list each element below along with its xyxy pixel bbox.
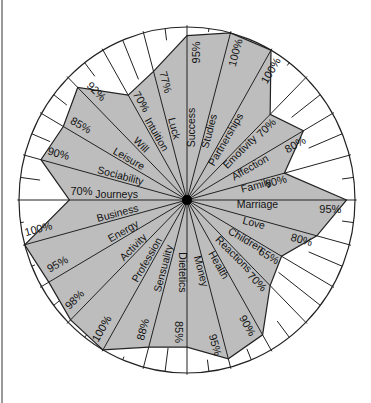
cell-divider — [207, 360, 209, 372]
cell-divider — [54, 301, 59, 305]
cell-divider — [342, 177, 353, 179]
category-label-journeys: Journeys — [95, 188, 138, 200]
cell-divider — [165, 348, 168, 372]
cell-divider — [20, 177, 40, 180]
cell-divider — [309, 252, 343, 266]
cell-divider — [32, 134, 50, 142]
value-label-dietetics: 85% — [173, 321, 185, 343]
cell-divider — [165, 28, 167, 40]
category-label-marriage: Marriage — [237, 198, 279, 210]
cell-divider — [277, 321, 289, 337]
cell-divider — [342, 221, 353, 223]
cell-divider — [54, 95, 67, 105]
value-label-marriage: 95% — [319, 203, 341, 215]
value-label-success: 95% — [190, 41, 202, 63]
cell-divider — [291, 95, 320, 118]
cell-divider — [309, 134, 343, 148]
center-hub — [182, 195, 192, 205]
category-label-success: Success — [185, 108, 197, 148]
cell-divider — [247, 349, 251, 360]
radar-chart: Marriage95%Family60%Affection80%Emotivit… — [0, 0, 371, 403]
value-label-journeys: 70% — [70, 185, 92, 197]
cell-divider — [85, 63, 95, 77]
category-label-dietetics: Dietetics — [177, 252, 189, 292]
cell-divider — [123, 40, 139, 79]
